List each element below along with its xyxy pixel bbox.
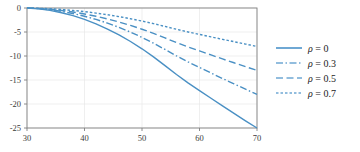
y-tick-label: 0	[17, 3, 21, 13]
x-tick-label: 40	[80, 133, 89, 143]
legend-label: ρ = 0.3	[307, 58, 336, 69]
y-tick-label: -15	[10, 75, 21, 85]
x-tick-label: 60	[195, 133, 204, 143]
line-chart: 3040506070 0-5-10-15-20-25 ρ = 0ρ = 0.3ρ…	[0, 0, 360, 152]
chart-legend: ρ = 0ρ = 0.3ρ = 0.5ρ = 0.7	[276, 43, 336, 99]
y-tick-label: -20	[10, 99, 21, 109]
y-axis-tick-labels: 0-5-10-15-20-25	[10, 3, 21, 133]
x-axis-tick-labels: 3040506070	[23, 133, 262, 143]
x-tick-label: 70	[253, 133, 262, 143]
gridlines	[27, 8, 257, 128]
y-tick-label: -5	[14, 27, 21, 37]
y-tick-label: -25	[10, 123, 21, 133]
legend-label: ρ = 0.5	[307, 73, 336, 84]
y-tick-label: -10	[10, 51, 21, 61]
legend-label: ρ = 0.7	[307, 88, 336, 99]
legend-label: ρ = 0	[307, 43, 328, 54]
chart-figure: 3040506070 0-5-10-15-20-25 ρ = 0ρ = 0.3ρ…	[0, 0, 360, 152]
x-tick-label: 50	[138, 133, 147, 143]
x-tick-label: 30	[23, 133, 32, 143]
